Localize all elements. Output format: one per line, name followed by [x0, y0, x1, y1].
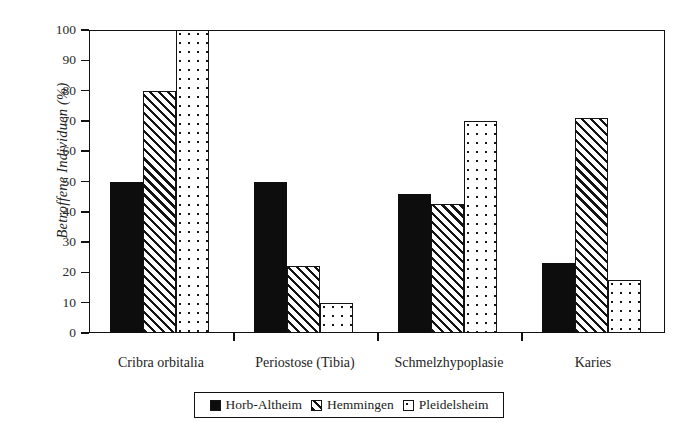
bar	[254, 182, 287, 334]
x-axis-label: Schmelzhypoplasie	[377, 355, 521, 371]
y-tick-label: 0	[69, 323, 76, 343]
legend-swatch-icon	[210, 400, 221, 411]
y-tick-mark	[81, 272, 89, 274]
y-tick-label: 60	[63, 141, 77, 161]
y-tick-label: 50	[63, 172, 77, 192]
x-tick-mark	[377, 333, 379, 341]
legend-swatch-icon	[403, 400, 414, 411]
bar	[287, 266, 320, 333]
y-tick-mark	[81, 332, 89, 334]
bar	[464, 121, 497, 333]
bar	[542, 263, 575, 333]
y-tick-mark	[81, 60, 89, 62]
y-tick-label: 100	[56, 20, 76, 40]
legend-swatch-icon	[311, 400, 322, 411]
y-tick-mark	[81, 241, 89, 243]
bar	[110, 182, 143, 334]
bar-chart-figure: Betroffene Individuen (%) 01020304050607…	[0, 0, 689, 446]
y-tick-mark	[81, 150, 89, 152]
y-tick-mark	[81, 302, 89, 304]
bar	[320, 303, 353, 333]
bar	[176, 30, 209, 333]
legend-item: Horb-Altheim	[210, 397, 303, 413]
x-axis-label: Karies	[521, 355, 665, 371]
y-tick-label: 90	[63, 50, 77, 70]
x-tick-mark	[233, 333, 235, 341]
legend-item: Pleidelsheim	[403, 397, 489, 413]
x-axis-label: Periostose (Tibia)	[233, 355, 377, 371]
y-tick-mark	[81, 120, 89, 122]
y-tick-label: 80	[63, 81, 77, 101]
legend-label: Pleidelsheim	[419, 397, 489, 413]
y-tick-mark	[81, 29, 89, 31]
bar	[608, 280, 641, 333]
y-tick-label: 40	[63, 202, 77, 222]
legend-item: Hemmingen	[311, 397, 394, 413]
bar	[398, 194, 431, 333]
y-tick-mark	[81, 90, 89, 92]
y-tick-label: 20	[63, 262, 77, 282]
y-tick-label: 30	[63, 232, 77, 252]
bar	[575, 118, 608, 333]
bars-layer	[89, 30, 665, 333]
y-tick-mark	[81, 211, 89, 213]
chart-legend: Horb-AltheimHemmingenPleidelsheim	[194, 392, 504, 418]
y-tick-label: 70	[63, 111, 77, 131]
x-tick-mark	[521, 333, 523, 341]
bar	[431, 204, 464, 333]
bar	[143, 91, 176, 333]
y-tick-label: 10	[63, 293, 77, 313]
caption-artifact-strip	[0, 432, 689, 446]
x-axis-label: Cribra orbitalia	[89, 355, 233, 371]
legend-label: Hemmingen	[327, 397, 394, 413]
legend-label: Horb-Altheim	[226, 397, 303, 413]
y-tick-mark	[81, 181, 89, 183]
